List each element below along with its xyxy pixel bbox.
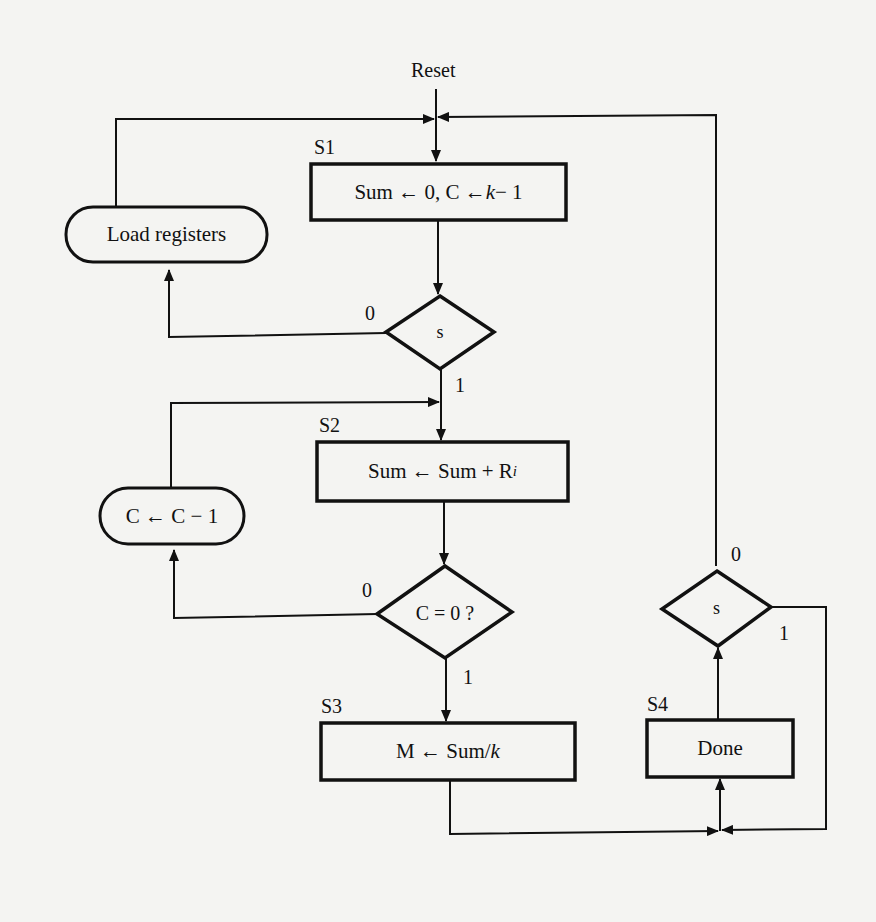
s2-action-subscript-i: i: [513, 463, 517, 480]
load-registers-text: Load registers: [66, 207, 267, 262]
s1-action-var-k: k: [486, 180, 495, 205]
s3-action-text: M ← Sum/: [396, 739, 491, 764]
s3-action-var-k: k: [491, 739, 500, 764]
reset-label: Reset: [411, 60, 455, 80]
s3-to-junction-arrow: [450, 780, 718, 834]
d3-branch0-label: 0: [731, 544, 741, 564]
state-s2-action: Sum ← Sum + Ri: [317, 442, 568, 501]
s1-action-text-b: − 1: [495, 180, 523, 205]
d2-branch1-label: 1: [463, 667, 473, 687]
d1-branch0-arrow: [169, 270, 386, 337]
state-s3-name: S3: [321, 696, 342, 716]
s1-action-text-a: Sum ← 0, C ←: [354, 180, 485, 205]
d1-condition: s: [386, 316, 494, 348]
d3-branch1-label: 1: [779, 623, 789, 643]
d3-condition: s: [662, 592, 771, 624]
s2-action-text: Sum ← Sum + R: [368, 459, 513, 484]
d2-branch0-arrow: [174, 550, 377, 618]
state-s1-name: S1: [314, 137, 335, 157]
state-s3-action: M ← Sum/k: [321, 723, 575, 780]
state-s4-name: S4: [647, 694, 668, 714]
d2-branch0-label: 0: [362, 580, 372, 600]
state-s1-action: Sum ← 0, C ← k − 1: [311, 164, 566, 220]
d2-condition: C = 0 ?: [392, 597, 498, 629]
d1-branch0-label: 0: [365, 303, 375, 323]
state-s2-name: S2: [319, 415, 340, 435]
state-s4-action: Done: [647, 720, 793, 777]
d1-branch1-label: 1: [455, 375, 465, 395]
dec-counter-text: C ← C − 1: [100, 488, 244, 544]
